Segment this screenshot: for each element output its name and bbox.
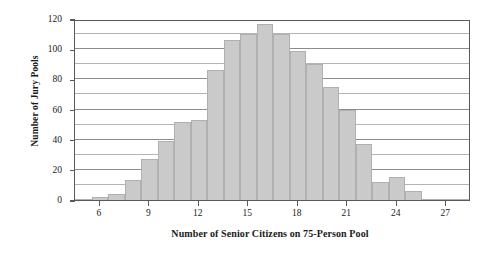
histogram-bar	[306, 64, 323, 200]
y-tick-label: 120	[36, 15, 62, 25]
histogram-bar	[158, 141, 175, 200]
x-tick-label: 12	[183, 208, 213, 219]
y-tick-label: 60	[36, 106, 62, 116]
histogram-bar	[207, 70, 224, 200]
histogram-bar	[125, 180, 142, 200]
plot-area	[74, 20, 470, 201]
histogram-bar	[92, 197, 109, 200]
histogram-bar	[273, 34, 290, 200]
histogram-bar	[290, 51, 307, 200]
histogram-bar	[339, 110, 356, 201]
x-tick-label: 27	[430, 208, 460, 219]
histogram-bar	[75, 199, 92, 201]
histogram-bar	[389, 177, 406, 200]
histogram-bar	[372, 182, 389, 200]
histogram-bar	[257, 24, 274, 200]
x-tick-mark	[198, 201, 199, 206]
histogram-bar	[356, 144, 373, 200]
histogram-bar	[224, 40, 241, 200]
histogram-bar	[141, 159, 158, 200]
histogram-bar	[455, 199, 471, 201]
x-tick-mark	[99, 201, 100, 206]
histogram-bar	[108, 194, 125, 200]
histogram-bar	[174, 122, 191, 200]
x-tick-mark	[445, 201, 446, 206]
y-tick-label: 80	[36, 75, 62, 85]
y-tick-label: 0	[36, 196, 62, 206]
x-tick-mark	[148, 201, 149, 206]
histogram-bar	[438, 199, 455, 201]
x-tick-label: 21	[331, 208, 361, 219]
y-tick-label: 40	[36, 136, 62, 146]
x-tick-mark	[247, 201, 248, 206]
x-tick-label: 24	[381, 208, 411, 219]
histogram-bar	[422, 199, 439, 201]
histogram-bar	[191, 120, 208, 200]
x-tick-label: 18	[282, 208, 312, 219]
y-tick-label: 100	[36, 45, 62, 55]
histogram-bar	[323, 87, 340, 200]
x-tick-mark	[346, 201, 347, 206]
histogram-bar	[405, 191, 422, 200]
y-axis-ticks: 020406080100120	[40, 20, 70, 201]
histogram-figure: Number of Jury Pools 020406080100120 691…	[0, 0, 496, 253]
x-tick-label: 6	[84, 208, 114, 219]
y-tick-label: 20	[36, 166, 62, 176]
x-axis-title: Number of Senior Citizens on 75-Person P…	[70, 228, 470, 239]
x-tick-mark	[297, 201, 298, 206]
histogram-bar	[240, 34, 257, 200]
x-tick-label: 9	[133, 208, 163, 219]
x-tick-label: 15	[232, 208, 262, 219]
x-tick-mark	[396, 201, 397, 206]
x-axis-ticks: 69121518212427	[74, 201, 470, 227]
